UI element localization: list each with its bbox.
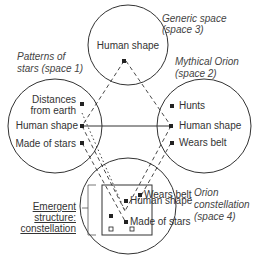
emergent-label-3: constellation [20, 223, 76, 234]
generic-title-1: Generic space [162, 13, 227, 24]
patterns-to-blend-dash [82, 126, 125, 211]
distances-to-blend-dot [82, 113, 125, 211]
orion-open-node-2 [130, 227, 134, 231]
patterns-item-human-shape: Human shape [16, 120, 79, 131]
generic-to-mythical-dash [126, 61, 171, 126]
emergent-label-2: structure: [34, 212, 76, 223]
mythical-node-human-shape [169, 124, 173, 128]
generic-item-human-shape: Human shape [97, 40, 160, 51]
patterns-title-2: stars (space 1) [17, 63, 83, 74]
generic-title-2: (space 3) [162, 24, 204, 35]
patterns-item-distances-1: Distances [32, 94, 76, 105]
patterns-title-1: Patterns of [17, 51, 67, 62]
orion-item-made-of-stars: Made of stars [130, 216, 191, 227]
mythical-title-2: (space 2) [175, 68, 217, 79]
patterns-item-made-of-stars: Made of stars [15, 138, 76, 149]
orion-open-node-1 [109, 227, 113, 231]
mythical-item-wears-belt: Wears belt [179, 137, 227, 148]
patterns-item-distances-2: from earth [30, 105, 76, 116]
madeofstars-to-blend-dash [82, 143, 125, 221]
orion-title-1: Orion [194, 187, 219, 198]
mythical-item-human-shape: Human shape [179, 120, 242, 131]
patterns-node-human-shape [80, 124, 84, 128]
orion-space-circle [80, 158, 176, 254]
patterns-node-distances [80, 102, 84, 106]
mythical-node-hunts [170, 104, 174, 108]
orion-node-human-shape [124, 199, 128, 203]
orion-title-2: constellation [194, 199, 250, 210]
orion-title-3: (space 4) [194, 211, 236, 222]
mythical-title-1: Mythical Orion [175, 56, 239, 67]
mythical-item-hunts: Hunts [179, 100, 205, 111]
orion-node-made-of-stars [124, 220, 128, 224]
generic-node [122, 59, 126, 63]
blending-diagram: Generic space (space 3) Human shape Patt… [0, 0, 256, 262]
emergent-bracket [82, 185, 96, 235]
orion-node-extra [109, 214, 113, 218]
orion-item-human-shape: Human shape [130, 195, 193, 206]
patterns-node-made-of-stars [80, 141, 84, 145]
mythical-node-wears-belt [170, 141, 174, 145]
emergent-label-1: Emergent [33, 201, 77, 212]
